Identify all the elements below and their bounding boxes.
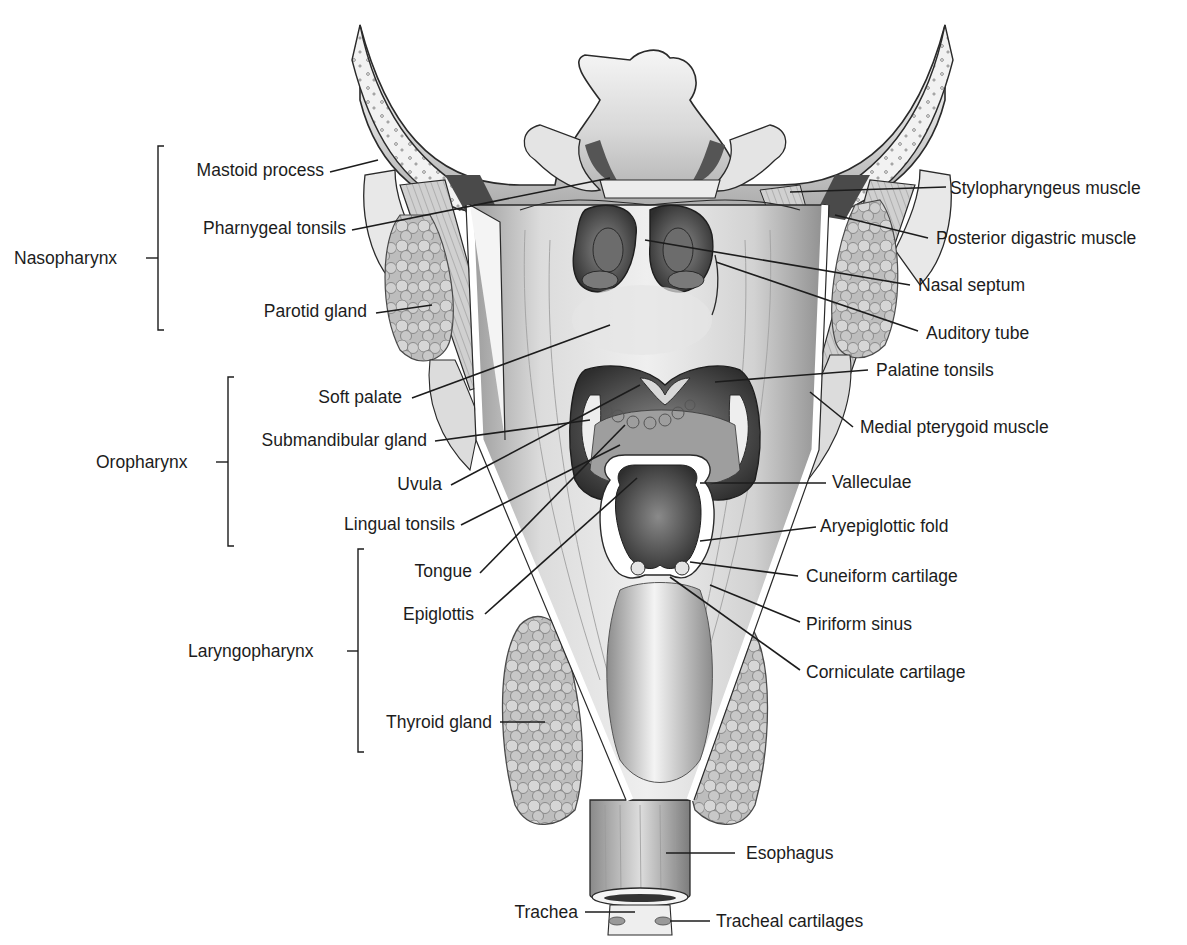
- label-tracheal-cartilages: Tracheal cartilages: [716, 911, 863, 931]
- label-uvula: Uvula: [397, 474, 442, 494]
- label-parotid-gland: Parotid gland: [264, 301, 367, 321]
- label-tongue: Tongue: [415, 561, 472, 581]
- label-aryepiglottic-fold: Aryepiglottic fold: [820, 516, 948, 536]
- label-mastoid-process: Mastoid process: [197, 160, 324, 180]
- label-piriform-sinus: Piriform sinus: [806, 614, 912, 634]
- label-epiglottis: Epiglottis: [403, 604, 474, 624]
- larynx: [600, 455, 714, 783]
- label-cuneiform-cartilage: Cuneiform cartilage: [806, 566, 958, 586]
- label-stylopharyngeus-muscle: Stylopharyngeus muscle: [950, 178, 1141, 198]
- label-esophagus: Esophagus: [746, 843, 834, 863]
- region-label-nasopharynx: Nasopharynx: [14, 248, 117, 268]
- label-thyroid-gland: Thyroid gland: [386, 712, 492, 732]
- label-soft-palate: Soft palate: [318, 387, 402, 407]
- pharynx-illustration: [0, 0, 1187, 945]
- label-pharyngeal-tonsils: Pharnygeal tonsils: [203, 218, 346, 238]
- label-posterior-digastric-muscle: Posterior digastric muscle: [936, 228, 1136, 248]
- label-valleculae: Valleculae: [832, 472, 911, 492]
- label-corniculate-cartilage: Corniculate cartilage: [806, 662, 966, 682]
- esophagus-trachea: [590, 800, 690, 935]
- label-lingual-tonsils: Lingual tonsils: [344, 514, 455, 534]
- label-medial-pterygoid-muscle: Medial pterygoid muscle: [860, 417, 1049, 437]
- label-trachea: Trachea: [514, 902, 578, 922]
- label-auditory-tube: Auditory tube: [926, 323, 1029, 343]
- label-nasal-septum: Nasal septum: [918, 275, 1025, 295]
- region-label-laryngopharynx: Laryngopharynx: [188, 641, 314, 661]
- region-label-oropharynx: Oropharynx: [96, 452, 187, 472]
- label-submandibular-gland: Submandibular gland: [262, 430, 427, 450]
- label-palatine-tonsils: Palatine tonsils: [876, 360, 994, 380]
